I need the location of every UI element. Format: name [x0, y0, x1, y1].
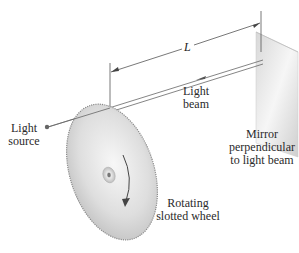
wheel-label: Rotating slotted wheel	[150, 197, 226, 223]
distance-label: L	[184, 40, 191, 55]
dimension-arrow-left-icon	[111, 67, 119, 72]
mirror-label: Mirror perpendicular to light beam	[224, 128, 299, 167]
light-source-label: Light source	[4, 122, 44, 148]
light-beam-label: Light beam	[176, 85, 216, 111]
light-source-dot-icon	[45, 125, 49, 129]
beam-direction-arrow-icon	[196, 76, 206, 80]
rotating-slotted-wheel	[50, 92, 173, 251]
